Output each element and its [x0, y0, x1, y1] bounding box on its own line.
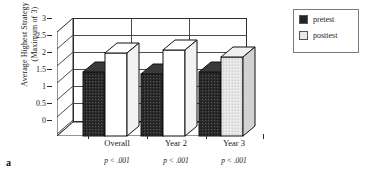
y-tick-label: 0 — [42, 116, 46, 125]
x-tick-label-year3: Year 3 — [223, 138, 245, 148]
y-tick-label: 2 — [42, 48, 46, 57]
figure-panel: a Average Highest Strategy Level (Maximu… — [0, 0, 367, 184]
x-axis-labels: Overall Year 2 Year 3 — [57, 138, 267, 154]
y-tick-mark — [47, 86, 52, 87]
legend-item-posttest: posttest — [299, 31, 354, 40]
legend-swatch-posttest — [299, 31, 308, 40]
legend-item-pretest: pretest — [299, 15, 354, 24]
y-tick-mark — [47, 18, 52, 19]
annotation-year2: p < .001 — [163, 156, 189, 165]
y-tick-mark — [47, 35, 52, 36]
y-tick-mark — [47, 69, 52, 70]
bar-overall-posttest — [105, 36, 141, 136]
legend-swatch-pretest — [299, 15, 308, 24]
y-tick-mark — [47, 120, 52, 121]
x-tick-label-overall: Overall — [104, 138, 130, 148]
y-tick-label: 2.5 — [36, 31, 46, 40]
x-axis-annotations: p < .001 p < .001 p < .001 — [57, 156, 267, 172]
y-tick-mark — [47, 103, 52, 104]
annotation-year3: p < .001 — [221, 156, 247, 165]
annotation-overall: p < .001 — [104, 156, 130, 165]
y-tick-mark — [47, 52, 52, 53]
y-tick-label: 1.5 — [36, 65, 46, 74]
bar-year3-posttest — [221, 36, 257, 136]
panel-letter: a — [6, 157, 11, 168]
legend-label-posttest: posttest — [313, 31, 337, 40]
legend: pretest posttest — [293, 9, 359, 53]
plot-area — [57, 18, 257, 136]
bar-year2-posttest — [163, 36, 199, 136]
y-axis: 3 2.5 2 1.5 1 0.5 0 — [24, 10, 58, 132]
y-tick-label: 1 — [42, 82, 46, 91]
x-tick-label-year2: Year 2 — [165, 138, 187, 148]
y-tick-label: 3 — [42, 14, 46, 23]
legend-label-pretest: pretest — [313, 15, 334, 24]
y-tick-label: 0.5 — [36, 99, 46, 108]
